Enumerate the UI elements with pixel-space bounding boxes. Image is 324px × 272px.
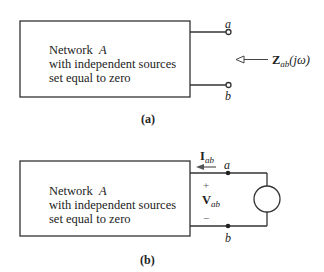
network-name: A — [99, 43, 107, 57]
network-b-line2: with independent sources — [49, 198, 176, 212]
network-a-line2: with independent sources — [49, 57, 176, 71]
impedance-arg: (jω) — [289, 53, 310, 67]
voltage-label: Vab — [202, 193, 220, 211]
network-name: A — [99, 184, 107, 198]
impedance-subscript: ab — [280, 59, 289, 69]
network-label: Network — [49, 184, 93, 198]
caption-b: (b) — [140, 253, 155, 267]
plus-sign: + — [203, 178, 209, 192]
network-label: Network — [49, 43, 93, 57]
current-label: Iab — [200, 149, 214, 167]
caption-a: (a) — [141, 112, 155, 126]
source-circle-icon — [254, 186, 280, 212]
network-b-title: Network A — [49, 184, 107, 198]
terminal-b-open-icon — [226, 83, 231, 88]
minus-sign: − — [203, 211, 209, 225]
current-subscript: ab — [205, 155, 214, 165]
terminal-b-label: b — [225, 89, 231, 103]
circuit-diagram — [0, 0, 324, 272]
node-a-label: a — [224, 158, 230, 172]
node-b-label: b — [225, 231, 231, 245]
network-a-title: Network A — [49, 43, 107, 57]
terminal-a-label: a — [225, 17, 231, 31]
voltage-symbol: V — [202, 193, 211, 207]
network-a-line3: set equal to zero — [49, 71, 131, 85]
network-b-line3: set equal to zero — [49, 212, 131, 226]
impedance-label: Zab(jω) — [272, 53, 310, 71]
impedance-arrow-icon — [236, 56, 268, 63]
voltage-subscript: ab — [211, 199, 220, 209]
node-b-dot-icon — [226, 224, 231, 229]
